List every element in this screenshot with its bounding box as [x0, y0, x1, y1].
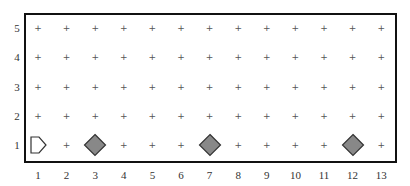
- grid-point-icon: +: [149, 53, 157, 62]
- grid-point-icon: +: [349, 24, 357, 33]
- grid-point-icon: +: [177, 141, 185, 150]
- grid-point-icon: +: [234, 53, 242, 62]
- grid-point-icon: +: [377, 82, 385, 91]
- grid-point-icon: +: [349, 82, 357, 91]
- grid-point-icon: +: [263, 141, 271, 150]
- grid-point-icon: +: [320, 82, 328, 91]
- grid-point-icon: +: [120, 111, 128, 120]
- grid-point-icon: +: [34, 111, 42, 120]
- grid-point-icon: +: [63, 53, 71, 62]
- grid-point-icon: +: [206, 53, 214, 62]
- diamond-icon: [341, 133, 365, 157]
- grid-point-icon: +: [120, 24, 128, 33]
- grid-point-icon: +: [234, 141, 242, 150]
- grid-point-icon: +: [149, 82, 157, 91]
- grid-point-icon: +: [120, 141, 128, 150]
- grid-board: 12345678910111213 12345 ++++++++++++++++…: [0, 0, 410, 186]
- grid-point-icon: +: [206, 24, 214, 33]
- grid-point-icon: +: [377, 24, 385, 33]
- grid-point-icon: +: [91, 82, 99, 91]
- grid-point-icon: +: [34, 82, 42, 91]
- grid-point-icon: +: [206, 82, 214, 91]
- grid-point-icon: +: [234, 24, 242, 33]
- grid-point-icon: +: [263, 111, 271, 120]
- x-label: 9: [264, 170, 270, 181]
- x-label: 10: [290, 170, 301, 181]
- grid-point-icon: +: [292, 53, 300, 62]
- x-label: 3: [92, 170, 98, 181]
- diamond-icon: [198, 133, 222, 157]
- y-label: 1: [14, 140, 20, 151]
- grid-point-icon: +: [63, 141, 71, 150]
- start-pointer-icon: [26, 133, 50, 157]
- grid-point-icon: +: [34, 24, 42, 33]
- grid-point-icon: +: [63, 24, 71, 33]
- grid-point-icon: +: [320, 24, 328, 33]
- grid-point-icon: +: [149, 24, 157, 33]
- grid-point-icon: +: [234, 82, 242, 91]
- grid-point-icon: +: [377, 111, 385, 120]
- grid-point-icon: +: [149, 111, 157, 120]
- grid-point-icon: +: [234, 111, 242, 120]
- grid-point-icon: +: [349, 111, 357, 120]
- grid-point-icon: +: [377, 53, 385, 62]
- x-label: 11: [319, 170, 330, 181]
- diamond-icon: [83, 133, 107, 157]
- grid-point-icon: +: [263, 82, 271, 91]
- grid-point-icon: +: [292, 111, 300, 120]
- x-label: 12: [347, 170, 358, 181]
- grid-point-icon: +: [91, 24, 99, 33]
- x-label: 1: [35, 170, 41, 181]
- grid-point-icon: +: [263, 53, 271, 62]
- x-label: 5: [150, 170, 156, 181]
- grid-point-icon: +: [91, 111, 99, 120]
- grid-point-icon: +: [63, 82, 71, 91]
- x-label: 8: [235, 170, 241, 181]
- y-label: 3: [14, 81, 20, 92]
- grid-point-icon: +: [349, 53, 357, 62]
- x-label: 13: [376, 170, 387, 181]
- grid-point-icon: +: [292, 24, 300, 33]
- grid-point-icon: +: [206, 111, 214, 120]
- y-label: 2: [14, 110, 20, 121]
- y-label: 5: [14, 23, 20, 34]
- grid-point-icon: +: [177, 111, 185, 120]
- grid-point-icon: +: [120, 82, 128, 91]
- grid-point-icon: +: [292, 82, 300, 91]
- grid-point-icon: +: [292, 141, 300, 150]
- x-label: 6: [178, 170, 184, 181]
- grid-point-icon: +: [177, 53, 185, 62]
- grid-point-icon: +: [263, 24, 271, 33]
- grid-point-icon: +: [63, 111, 71, 120]
- grid-point-icon: +: [177, 24, 185, 33]
- x-label: 2: [64, 170, 70, 181]
- grid-point-icon: +: [91, 53, 99, 62]
- grid-point-icon: +: [149, 141, 157, 150]
- grid-point-icon: +: [320, 141, 328, 150]
- y-label: 4: [14, 52, 20, 63]
- grid-point-icon: +: [177, 82, 185, 91]
- grid-point-icon: +: [120, 53, 128, 62]
- x-label: 4: [121, 170, 127, 181]
- grid-point-icon: +: [320, 53, 328, 62]
- grid-point-icon: +: [34, 53, 42, 62]
- grid-point-icon: +: [377, 141, 385, 150]
- grid-point-icon: +: [320, 111, 328, 120]
- x-label: 7: [207, 170, 213, 181]
